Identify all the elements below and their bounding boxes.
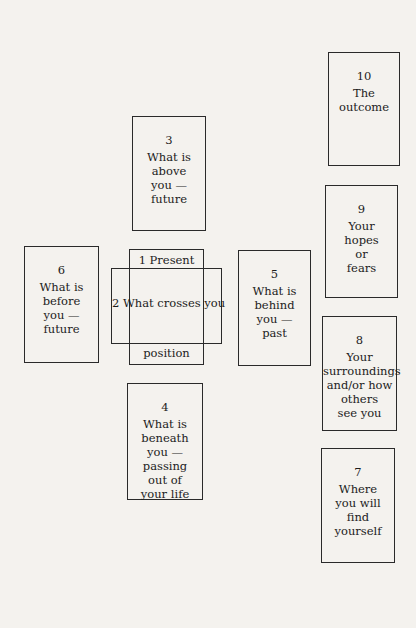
card-text-line: see you bbox=[323, 406, 396, 420]
card-text-line: your life bbox=[128, 487, 202, 501]
card-text-line: passing bbox=[128, 459, 202, 473]
card-text-line: yourself bbox=[322, 524, 394, 538]
card-number: 5 bbox=[239, 267, 310, 281]
card-2-crosses: 2 What crosses you bbox=[111, 268, 222, 344]
card-1-bottom-label: position bbox=[130, 346, 203, 360]
card-text-line: Your bbox=[326, 219, 397, 233]
card-2-label: 2 What crosses you bbox=[112, 296, 221, 310]
card-text-line: hopes bbox=[326, 233, 397, 247]
card-6-before: 6 What is before you — future bbox=[24, 246, 99, 363]
card-1-top-label: 1 Present bbox=[130, 253, 203, 267]
card-text-line: Your bbox=[323, 350, 396, 364]
card-text-line: above bbox=[133, 164, 205, 178]
card-number: 7 bbox=[322, 465, 394, 479]
card-text-line: outcome bbox=[329, 100, 399, 114]
card-number: 10 bbox=[329, 69, 399, 83]
card-text-line: Where bbox=[322, 482, 394, 496]
card-text-line: past bbox=[239, 326, 310, 340]
card-text-line: What is bbox=[239, 284, 310, 298]
card-text-line: future bbox=[133, 192, 205, 206]
card-text-line: behind bbox=[239, 298, 310, 312]
card-text-line: you will bbox=[322, 496, 394, 510]
card-text-line: find bbox=[322, 510, 394, 524]
card-text-line: you — bbox=[133, 178, 205, 192]
card-text-line: others bbox=[323, 392, 396, 406]
card-text-line: beneath bbox=[128, 431, 202, 445]
card-8-surroundings: 8 Your surroundings and/or how others se… bbox=[322, 316, 397, 431]
card-4-beneath: 4 What is beneath you — passing out of y… bbox=[127, 383, 203, 500]
card-text-line: you — bbox=[25, 308, 98, 322]
card-9-hopes-fears: 9 Your hopes or fears bbox=[325, 185, 398, 298]
card-3-above: 3 What is above you — future bbox=[132, 116, 206, 231]
card-text-line: you — bbox=[128, 445, 202, 459]
card-number: 8 bbox=[323, 333, 396, 347]
card-5-behind: 5 What is behind you — past bbox=[238, 250, 311, 366]
card-number: 9 bbox=[326, 202, 397, 216]
card-text-line: fears bbox=[326, 261, 397, 275]
card-text-line: What is bbox=[128, 417, 202, 431]
card-number: 6 bbox=[25, 263, 98, 277]
card-text-line: What is bbox=[25, 280, 98, 294]
card-text-line: surroundings bbox=[323, 364, 396, 378]
card-text-line: and/or how bbox=[323, 378, 396, 392]
card-text-line: you — bbox=[239, 312, 310, 326]
card-text-line: future bbox=[25, 322, 98, 336]
card-text-line: The bbox=[329, 86, 399, 100]
card-number: 4 bbox=[128, 400, 202, 414]
card-text-line: out of bbox=[128, 473, 202, 487]
card-10-outcome: 10 The outcome bbox=[328, 52, 400, 166]
card-text-line: before bbox=[25, 294, 98, 308]
card-text-line: or bbox=[326, 247, 397, 261]
card-number: 3 bbox=[133, 133, 205, 147]
card-7-where-you-will-find-yourself: 7 Where you will find yourself bbox=[321, 448, 395, 563]
card-text-line: What is bbox=[133, 150, 205, 164]
